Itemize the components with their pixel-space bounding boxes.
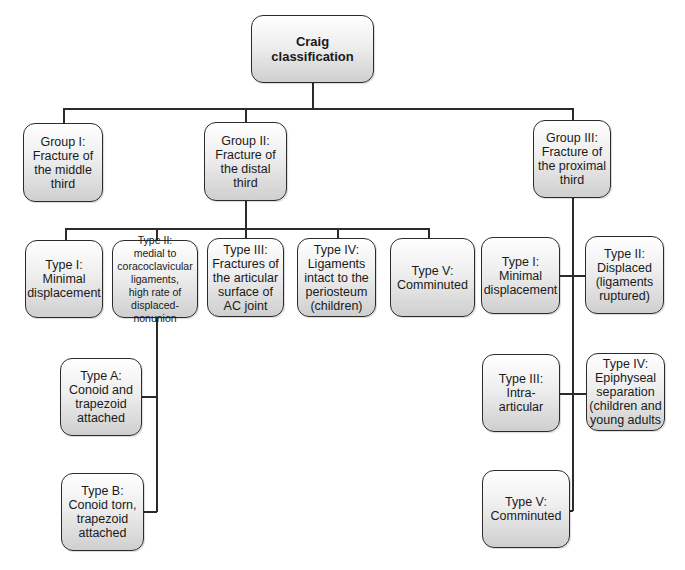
g2-typeB-node: Type B: Conoid torn, trapezoid attached [61,473,144,551]
connector-root-down [312,83,314,108]
g2-type3-node: Type III: Fractures of the articular sur… [207,238,284,317]
group2-label: Group II: Fracture of the distal third [215,134,275,190]
g3-type3-node: Type III: Intra-articular [482,354,560,432]
g2-typeB-label: Type B: Conoid torn, trapezoid attached [68,484,136,540]
g3-type1-label: Type I: Minimal displacement [484,255,558,297]
g2-type4-label: Type IV: Ligaments intact to the periost… [304,243,369,313]
group1-node: Group I: Fracture of the middle third [23,123,103,202]
connector-g3-row1 [560,275,585,277]
g3-type4-label: Type IV: Epiphyseal separation (children… [589,357,661,427]
connector-group1 [63,108,65,123]
g2-type3-label: Type III: Fractures of the articular sur… [212,243,279,313]
root-node-craig-classification: Craig classification [251,15,374,83]
root-label: Craig classification [271,34,353,64]
group3-label: Group III: Fracture of the proximal thir… [538,131,606,187]
connector-group2 [245,108,247,122]
connector-typeA [142,396,157,398]
connector-g2-type4 [337,228,339,238]
connector-type2-down [156,318,158,512]
connector-typeB [144,511,157,513]
connector-group2-types-bar [65,228,429,230]
g2-typeA-node: Type A: Conoid and trapezoid attached [60,358,142,436]
group1-label: Group I: Fracture of the middle third [33,135,93,191]
g2-type5-node: Type V: Comminuted [390,238,475,317]
connector-group2-down [245,201,247,228]
g2-type5-label: Type V: Comminuted [397,264,468,292]
g3-type5-node: Type V: Comminuted [482,470,570,548]
connector-g3-row2 [560,393,586,395]
g2-type1-node: Type I: Minimal displacement [25,240,103,318]
g3-type2-label: Type II: Displaced (ligaments ruptured) [596,247,654,303]
connector-g2-type5 [428,228,430,238]
g2-typeA-label: Type A: Conoid and trapezoid attached [69,369,133,425]
connector-group3 [572,108,574,120]
group3-node: Group III: Fracture of the proximal thir… [533,120,611,198]
g2-type1-label: Type I: Minimal displacement [27,258,101,300]
connector-g2-type1 [65,228,67,240]
g2-type2-label: Type II: medial to coracoclavicular liga… [115,234,195,325]
g3-type3-label: Type III: Intra-articular [485,372,557,414]
g2-type2-node: Type II: medial to coracoclavicular liga… [112,240,198,318]
g3-type2-node: Type II: Displaced (ligaments ruptured) [585,236,664,314]
connector-group3-down [572,198,574,511]
group2-node: Group II: Fracture of the distal third [204,122,287,201]
g3-type1-node: Type I: Minimal displacement [481,237,560,314]
g2-type4-node: Type IV: Ligaments intact to the periost… [297,238,376,317]
connector-g3-type5 [570,510,573,512]
g3-type5-label: Type V: Comminuted [491,495,562,523]
g3-type4-node: Type IV: Epiphyseal separation (children… [586,353,665,431]
connector-groups-bar [63,108,573,110]
connector-g2-type3 [245,228,247,238]
